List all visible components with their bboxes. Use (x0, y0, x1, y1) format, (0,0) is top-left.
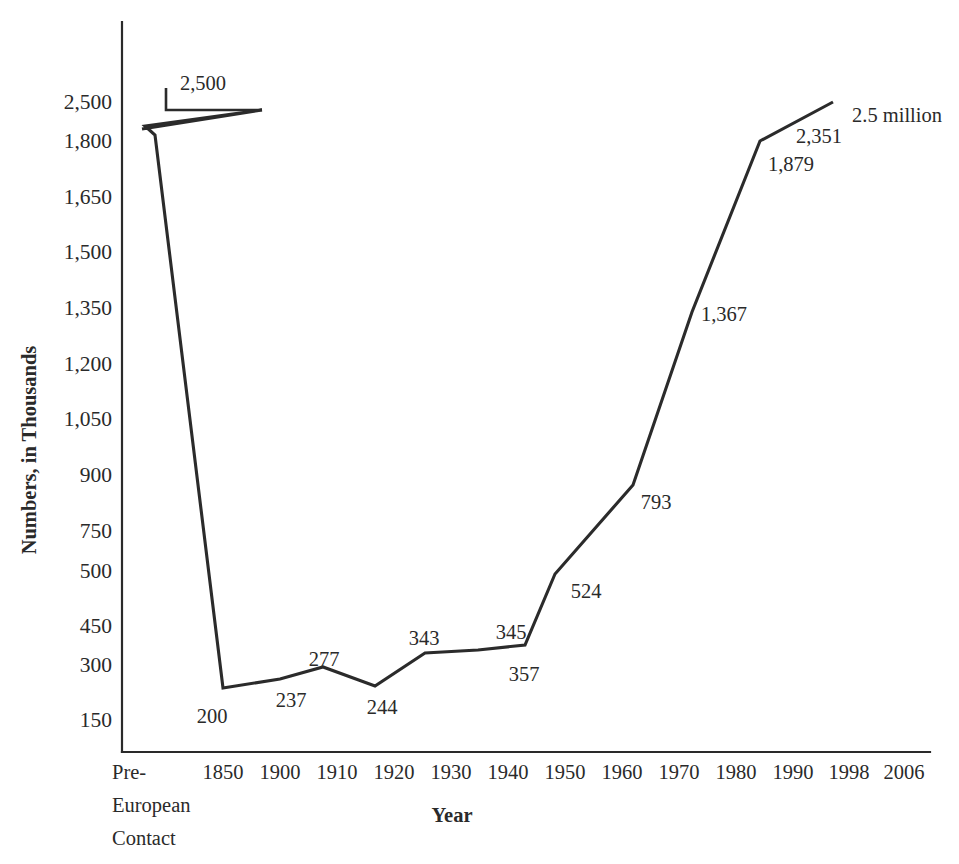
y-tick-label: 1,350 (64, 296, 112, 320)
y-tick-label: 750 (80, 519, 112, 543)
x-tick-label: 1998 (829, 761, 870, 783)
x-tick-label: 1990 (773, 761, 814, 783)
series-line-population (142, 102, 833, 688)
x-axis-title: Year (432, 804, 473, 826)
x-tick-label: 1940 (488, 761, 529, 783)
y-tick-label: 1,500 (64, 240, 112, 264)
data-label: 357 (509, 663, 540, 685)
data-label: 1,367 (701, 303, 747, 325)
x-tick-label: 1920 (374, 761, 415, 783)
x-tick-label: 1850 (203, 761, 244, 783)
x-tick-label-category-line1: Pre- (112, 761, 146, 783)
data-label: 277 (309, 648, 340, 670)
y-tick-label: 2,500 (64, 90, 112, 114)
y-tick-label: 900 (80, 463, 112, 487)
data-label: 2,500 (180, 72, 226, 94)
y-tick-label: 1,050 (64, 407, 112, 431)
y-tick-label: 500 (80, 559, 112, 583)
y-tick-label: 450 (80, 614, 112, 638)
x-tick-label: 1900 (260, 761, 301, 783)
x-tick-label: 1970 (659, 761, 700, 783)
x-tick-label: 1930 (431, 761, 472, 783)
y-tick-label: 1,650 (64, 185, 112, 209)
data-label: 793 (641, 491, 672, 513)
x-tick-label-category-line2: European (112, 794, 191, 817)
data-label: 244 (367, 696, 398, 718)
y-tick-label: 150 (80, 708, 112, 732)
line-chart-plot: 2,500 1,800 1,650 1,500 1,350 1,200 1,05… (0, 0, 959, 864)
data-label: 237 (276, 689, 307, 711)
x-tick-label: 1980 (716, 761, 757, 783)
y-axis-title: Numbers, in Thousands (18, 346, 40, 555)
data-label: 2.5 million (852, 104, 942, 126)
x-tick-label: 1960 (602, 761, 643, 783)
data-label: 345 (496, 621, 527, 643)
data-label: 2,351 (796, 125, 842, 147)
data-label: 524 (571, 580, 602, 602)
x-tick-label: 1910 (317, 761, 358, 783)
x-tick-label: 2006 (884, 761, 925, 783)
x-tick-label-category-line3: Contact (112, 827, 176, 849)
y-tick-label: 300 (80, 653, 112, 677)
data-label: 343 (409, 627, 440, 649)
chart-container: 2,500 1,800 1,650 1,500 1,350 1,200 1,05… (0, 0, 959, 864)
x-tick-label: 1950 (545, 761, 586, 783)
data-label: 1,879 (768, 153, 814, 175)
y-tick-label: 1,800 (64, 129, 112, 153)
data-label: 200 (197, 705, 228, 727)
y-tick-label: 1,200 (64, 352, 112, 376)
